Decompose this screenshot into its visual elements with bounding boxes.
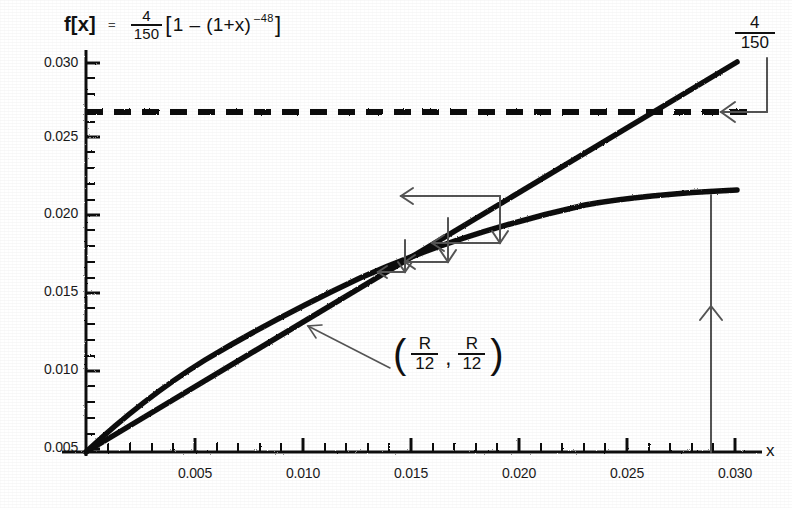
- y-axis-major-ticks: [86, 63, 100, 449]
- function-curve-series: [86, 190, 737, 452]
- x-axis-major-ticks: [195, 438, 735, 452]
- vertical-up-arrow-annotation: [700, 195, 722, 452]
- fixed-point-leader-line: [308, 325, 390, 368]
- plot-canvas: [0, 0, 792, 508]
- figure-plot: f[x] = 4 150 [ 1 – (1+x) –48 ] 4 150 ( R…: [0, 0, 792, 508]
